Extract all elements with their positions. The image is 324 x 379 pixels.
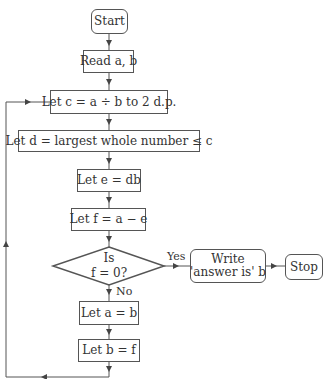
let-c-box: Let c = a ÷ b to 2 d.p. (50, 90, 168, 114)
let-a-equals-b-box: Let a = b (79, 301, 139, 325)
let-e-box: Let e = db (77, 169, 141, 192)
connector-lines (0, 0, 324, 379)
read-ab-box: Read a, b (83, 50, 134, 73)
decision-line-1: Is (79, 251, 139, 266)
start-terminal: Start (91, 9, 128, 34)
stop-terminal: Stop (285, 254, 323, 280)
no-label: No (116, 285, 132, 298)
decision-line-2: f = 0? (79, 266, 139, 281)
let-d-box: Let d = largest whole number ≤ c (18, 130, 200, 152)
let-f-box: Let f = a − e (71, 208, 146, 231)
write-line-2: 'answer is' b (190, 266, 266, 279)
let-b-equals-f-box: Let b = f (78, 339, 140, 362)
yes-label: Yes (167, 250, 185, 263)
write-answer-terminal: Write 'answer is' b (190, 249, 266, 283)
decision-text: Is f = 0? (79, 251, 139, 281)
